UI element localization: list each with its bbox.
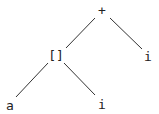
edge-index-i xyxy=(64,63,95,95)
expression-tree: + [] i a i xyxy=(0,0,159,114)
node-a: a xyxy=(6,99,14,112)
node-plus: + xyxy=(98,4,106,17)
edge-index-a xyxy=(16,63,48,97)
edge-plus-i xyxy=(110,18,142,49)
node-i-right: i xyxy=(144,50,152,63)
node-i-bottom: i xyxy=(98,98,106,111)
tree-edges xyxy=(0,0,159,114)
node-index-operator: [] xyxy=(48,49,64,62)
edge-plus-index xyxy=(66,18,95,48)
